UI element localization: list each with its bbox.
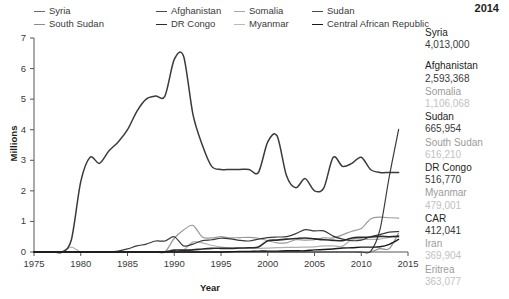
legend-line-swatch-icon bbox=[156, 11, 167, 12]
line-chart-svg bbox=[0, 30, 420, 299]
legend-item-central-african-republic[interactable]: Central African Republic bbox=[312, 18, 429, 30]
series-line-afghanistan bbox=[34, 52, 399, 253]
legend-item-label: Sudan bbox=[327, 5, 354, 17]
rank-country-name: DR Congo bbox=[425, 162, 509, 174]
chart-page: SyriaAfghanistanSomaliaSudanSouth SudanD… bbox=[0, 0, 509, 299]
rank-country-name: Afghanistan bbox=[425, 60, 509, 72]
rank-country-name: South Sudan bbox=[425, 137, 509, 149]
rank-country-value: 4,013,000 bbox=[425, 39, 509, 51]
legend-item-afghanistan[interactable]: Afghanistan bbox=[156, 5, 221, 17]
ranking-list: Syria4,013,000Afghanistan2,593,368Somali… bbox=[425, 27, 509, 289]
legend-item-label: Syria bbox=[49, 5, 71, 17]
legend-line-swatch-icon bbox=[234, 24, 245, 25]
rank-country-value: 363,077 bbox=[425, 276, 509, 288]
legend-item-label: Central African Republic bbox=[327, 18, 429, 30]
rank-entry-myanmar[interactable]: Myanmar479,001 bbox=[425, 187, 509, 211]
rank-entry-somalia[interactable]: Somalia1,106,068 bbox=[425, 86, 509, 110]
legend-line-swatch-icon bbox=[34, 24, 45, 25]
rank-entry-car[interactable]: CAR412,041 bbox=[425, 213, 509, 237]
legend-item-somalia[interactable]: Somalia bbox=[234, 5, 283, 17]
rank-entry-dr-congo[interactable]: DR Congo516,770 bbox=[425, 162, 509, 186]
chart-legend: SyriaAfghanistanSomaliaSudanSouth SudanD… bbox=[34, 5, 414, 33]
legend-line-swatch-icon bbox=[156, 24, 167, 25]
rank-country-value: 616,210 bbox=[425, 149, 509, 161]
rank-country-name: Iran bbox=[425, 238, 509, 250]
rank-entry-iran[interactable]: Iran369,904 bbox=[425, 238, 509, 262]
rank-country-value: 665,954 bbox=[425, 123, 509, 135]
rank-country-value: 479,001 bbox=[425, 200, 509, 212]
legend-line-swatch-icon bbox=[312, 11, 323, 12]
ranking-side-panel: 2014 Syria4,013,000Afghanistan2,593,368S… bbox=[420, 0, 509, 299]
rank-country-name: CAR bbox=[425, 213, 509, 225]
rank-entry-afghanistan[interactable]: Afghanistan2,593,368 bbox=[425, 60, 509, 84]
rank-country-name: Myanmar bbox=[425, 187, 509, 199]
rank-country-name: Sudan bbox=[425, 111, 509, 123]
legend-line-swatch-icon bbox=[312, 24, 323, 25]
rank-entry-syria[interactable]: Syria4,013,000 bbox=[425, 27, 509, 51]
rank-entry-sudan[interactable]: Sudan665,954 bbox=[425, 111, 509, 135]
legend-item-sudan[interactable]: Sudan bbox=[312, 5, 354, 17]
rank-country-name: Somalia bbox=[425, 86, 509, 98]
legend-line-swatch-icon bbox=[234, 11, 245, 12]
rank-country-value: 2,593,368 bbox=[425, 73, 509, 85]
series-line-south-sudan bbox=[34, 233, 399, 252]
legend-item-south-sudan[interactable]: South Sudan bbox=[34, 18, 104, 30]
legend-item-label: Afghanistan bbox=[171, 5, 221, 17]
rank-country-value: 1,106,068 bbox=[425, 98, 509, 110]
rank-country-name: Eritrea bbox=[425, 264, 509, 276]
side-panel-year: 2014 bbox=[420, 2, 499, 14]
legend-item-syria[interactable]: Syria bbox=[34, 5, 71, 17]
legend-item-label: Myanmar bbox=[249, 18, 289, 30]
chart-plot-region: Millions 01234567 1975198019851990199520… bbox=[0, 30, 420, 299]
rank-country-name: Syria bbox=[425, 27, 509, 39]
legend-item-label: DR Congo bbox=[171, 18, 215, 30]
rank-entry-south-sudan[interactable]: South Sudan616,210 bbox=[425, 137, 509, 161]
rank-country-value: 516,770 bbox=[425, 174, 509, 186]
rank-country-value: 412,041 bbox=[425, 225, 509, 237]
legend-line-swatch-icon bbox=[34, 11, 45, 12]
legend-item-label: South Sudan bbox=[49, 18, 104, 30]
rank-entry-eritrea[interactable]: Eritrea363,077 bbox=[425, 264, 509, 288]
legend-item-label: Somalia bbox=[249, 5, 283, 17]
rank-country-value: 369,904 bbox=[425, 250, 509, 262]
legend-item-dr-congo[interactable]: DR Congo bbox=[156, 18, 215, 30]
legend-item-myanmar[interactable]: Myanmar bbox=[234, 18, 289, 30]
